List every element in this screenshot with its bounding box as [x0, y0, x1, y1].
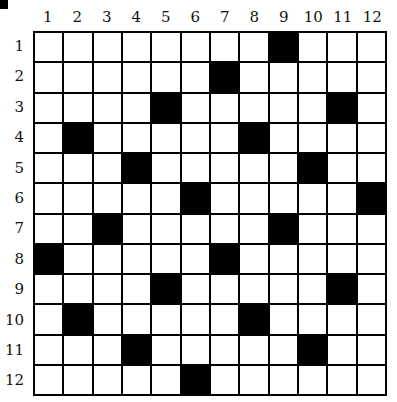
white-cell[interactable] [299, 184, 326, 212]
white-cell[interactable] [240, 245, 267, 273]
white-cell[interactable] [35, 215, 62, 243]
white-cell[interactable] [211, 215, 238, 243]
white-cell[interactable] [35, 336, 62, 364]
white-cell[interactable] [182, 94, 209, 122]
white-cell[interactable] [328, 305, 355, 333]
white-cell[interactable] [152, 124, 179, 152]
white-cell[interactable] [64, 184, 91, 212]
white-cell[interactable] [123, 366, 150, 394]
white-cell[interactable] [358, 336, 385, 364]
white-cell[interactable] [299, 245, 326, 273]
white-cell[interactable] [299, 124, 326, 152]
white-cell[interactable] [94, 124, 121, 152]
white-cell[interactable] [123, 63, 150, 91]
white-cell[interactable] [123, 305, 150, 333]
white-cell[interactable] [358, 154, 385, 182]
white-cell[interactable] [299, 305, 326, 333]
white-cell[interactable] [328, 184, 355, 212]
white-cell[interactable] [64, 336, 91, 364]
white-cell[interactable] [123, 94, 150, 122]
white-cell[interactable] [240, 184, 267, 212]
white-cell[interactable] [240, 336, 267, 364]
white-cell[interactable] [358, 245, 385, 273]
white-cell[interactable] [64, 33, 91, 61]
white-cell[interactable] [123, 33, 150, 61]
white-cell[interactable] [211, 184, 238, 212]
white-cell[interactable] [123, 124, 150, 152]
white-cell[interactable] [35, 63, 62, 91]
white-cell[interactable] [358, 275, 385, 303]
white-cell[interactable] [94, 275, 121, 303]
white-cell[interactable] [94, 336, 121, 364]
white-cell[interactable] [94, 94, 121, 122]
white-cell[interactable] [358, 94, 385, 122]
white-cell[interactable] [182, 154, 209, 182]
white-cell[interactable] [270, 336, 297, 364]
white-cell[interactable] [270, 245, 297, 273]
white-cell[interactable] [299, 33, 326, 61]
white-cell[interactable] [358, 305, 385, 333]
white-cell[interactable] [123, 215, 150, 243]
white-cell[interactable] [94, 33, 121, 61]
white-cell[interactable] [35, 154, 62, 182]
white-cell[interactable] [358, 63, 385, 91]
white-cell[interactable] [328, 124, 355, 152]
white-cell[interactable] [270, 305, 297, 333]
white-cell[interactable] [35, 305, 62, 333]
white-cell[interactable] [358, 366, 385, 394]
white-cell[interactable] [152, 184, 179, 212]
white-cell[interactable] [94, 63, 121, 91]
white-cell[interactable] [35, 366, 62, 394]
white-cell[interactable] [299, 215, 326, 243]
white-cell[interactable] [240, 94, 267, 122]
white-cell[interactable] [211, 124, 238, 152]
white-cell[interactable] [240, 275, 267, 303]
white-cell[interactable] [299, 275, 326, 303]
white-cell[interactable] [270, 124, 297, 152]
white-cell[interactable] [328, 245, 355, 273]
white-cell[interactable] [299, 94, 326, 122]
white-cell[interactable] [182, 33, 209, 61]
white-cell[interactable] [35, 124, 62, 152]
white-cell[interactable] [270, 275, 297, 303]
white-cell[interactable] [299, 366, 326, 394]
white-cell[interactable] [152, 154, 179, 182]
white-cell[interactable] [94, 366, 121, 394]
white-cell[interactable] [240, 33, 267, 61]
white-cell[interactable] [328, 215, 355, 243]
white-cell[interactable] [152, 63, 179, 91]
white-cell[interactable] [152, 33, 179, 61]
white-cell[interactable] [211, 94, 238, 122]
white-cell[interactable] [152, 215, 179, 243]
white-cell[interactable] [240, 154, 267, 182]
white-cell[interactable] [182, 215, 209, 243]
white-cell[interactable] [270, 154, 297, 182]
white-cell[interactable] [358, 124, 385, 152]
white-cell[interactable] [182, 336, 209, 364]
white-cell[interactable] [328, 366, 355, 394]
white-cell[interactable] [64, 154, 91, 182]
white-cell[interactable] [211, 275, 238, 303]
white-cell[interactable] [211, 154, 238, 182]
white-cell[interactable] [64, 275, 91, 303]
white-cell[interactable] [123, 184, 150, 212]
white-cell[interactable] [270, 94, 297, 122]
white-cell[interactable] [152, 245, 179, 273]
white-cell[interactable] [35, 33, 62, 61]
white-cell[interactable] [64, 94, 91, 122]
white-cell[interactable] [123, 275, 150, 303]
white-cell[interactable] [270, 184, 297, 212]
white-cell[interactable] [328, 336, 355, 364]
white-cell[interactable] [64, 215, 91, 243]
white-cell[interactable] [94, 154, 121, 182]
white-cell[interactable] [328, 33, 355, 61]
white-cell[interactable] [328, 154, 355, 182]
white-cell[interactable] [358, 33, 385, 61]
white-cell[interactable] [358, 215, 385, 243]
white-cell[interactable] [182, 305, 209, 333]
white-cell[interactable] [94, 184, 121, 212]
white-cell[interactable] [152, 305, 179, 333]
white-cell[interactable] [182, 275, 209, 303]
white-cell[interactable] [152, 366, 179, 394]
white-cell[interactable] [35, 184, 62, 212]
